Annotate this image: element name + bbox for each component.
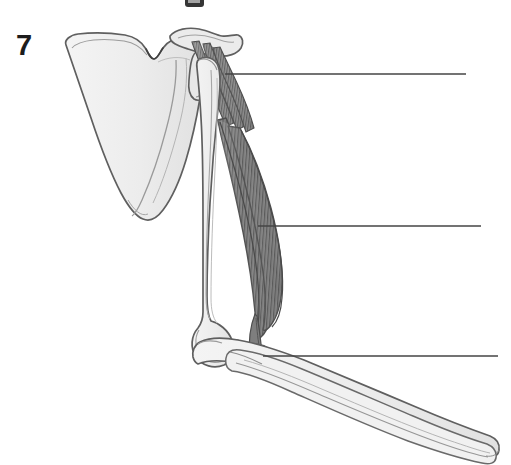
- anatomical-figure-page: 7: [0, 0, 511, 465]
- anatomy-illustration: [0, 0, 511, 465]
- scapula-group: [66, 33, 203, 220]
- biceps-brachii-group: [218, 118, 283, 338]
- scapula-blade: [66, 33, 203, 220]
- forearm-group: [193, 338, 499, 464]
